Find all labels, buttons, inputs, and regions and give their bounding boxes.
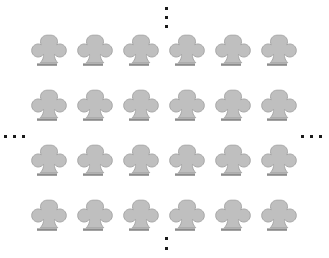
ellipsis-dot [301,135,304,138]
club-cell-r2c4 [163,86,207,130]
club-suit-icon [163,196,207,240]
club-cell-r1c5 [209,31,253,75]
club-suit-icon [163,141,207,185]
club-cell-r1c2 [71,31,115,75]
club-cell-r4c4 [163,196,207,240]
ellipsis-dot [4,135,7,138]
club-cell-r3c1 [25,141,69,185]
club-suit-icon [163,86,207,130]
ellipsis-dot [165,16,168,19]
ellipsis-right [300,134,326,138]
club-cell-r1c6 [255,31,299,75]
ellipsis-dot [165,247,168,250]
ellipsis-dot [165,237,168,240]
club-cell-r4c6 [255,196,299,240]
club-cell-r3c2 [71,141,115,185]
club-cell-r2c5 [209,86,253,130]
ellipsis-dot [319,135,322,138]
club-suit-icon [71,31,115,75]
ellipsis-dot [310,135,313,138]
club-suit-icon [71,141,115,185]
club-cell-r2c6 [255,86,299,130]
club-cell-r2c3 [117,86,161,130]
club-cell-r3c3 [117,141,161,185]
club-suit-icon [117,196,161,240]
club-cell-r1c3 [117,31,161,75]
club-suit-icon [163,31,207,75]
club-cell-r4c2 [71,196,115,240]
ellipsis-bottom [165,234,169,256]
club-suit-icon [25,196,69,240]
ellipsis-top [165,5,169,31]
club-suit-icon [71,196,115,240]
club-suit-icon [255,86,299,130]
ellipsis-dot [13,135,16,138]
club-cell-r1c1 [25,31,69,75]
ellipsis-dot [22,135,25,138]
ellipsis-dot [165,25,168,28]
club-suit-icon [255,196,299,240]
club-row-2 [0,86,329,130]
club-suit-icon [209,86,253,130]
club-row-1 [0,31,329,75]
club-suit-icon [25,31,69,75]
club-suit-icon [209,31,253,75]
club-cell-r4c5 [209,196,253,240]
club-suit-icon [25,141,69,185]
ellipsis-dot [165,7,168,10]
club-cell-r2c2 [71,86,115,130]
club-row-3 [0,141,329,185]
club-cell-r3c6 [255,141,299,185]
club-symbol-grid [0,0,329,258]
club-suit-icon [209,196,253,240]
ellipsis-left [3,134,29,138]
club-cell-r1c4 [163,31,207,75]
club-suit-icon [117,86,161,130]
club-suit-icon [117,141,161,185]
club-cell-r3c5 [209,141,253,185]
club-cell-r4c1 [25,196,69,240]
club-suit-icon [255,31,299,75]
club-suit-icon [25,86,69,130]
club-suit-icon [255,141,299,185]
club-suit-icon [209,141,253,185]
club-cell-r4c3 [117,196,161,240]
club-suit-icon [117,31,161,75]
club-cell-r3c4 [163,141,207,185]
club-suit-icon [71,86,115,130]
figure-canvas [0,0,329,258]
club-cell-r2c1 [25,86,69,130]
